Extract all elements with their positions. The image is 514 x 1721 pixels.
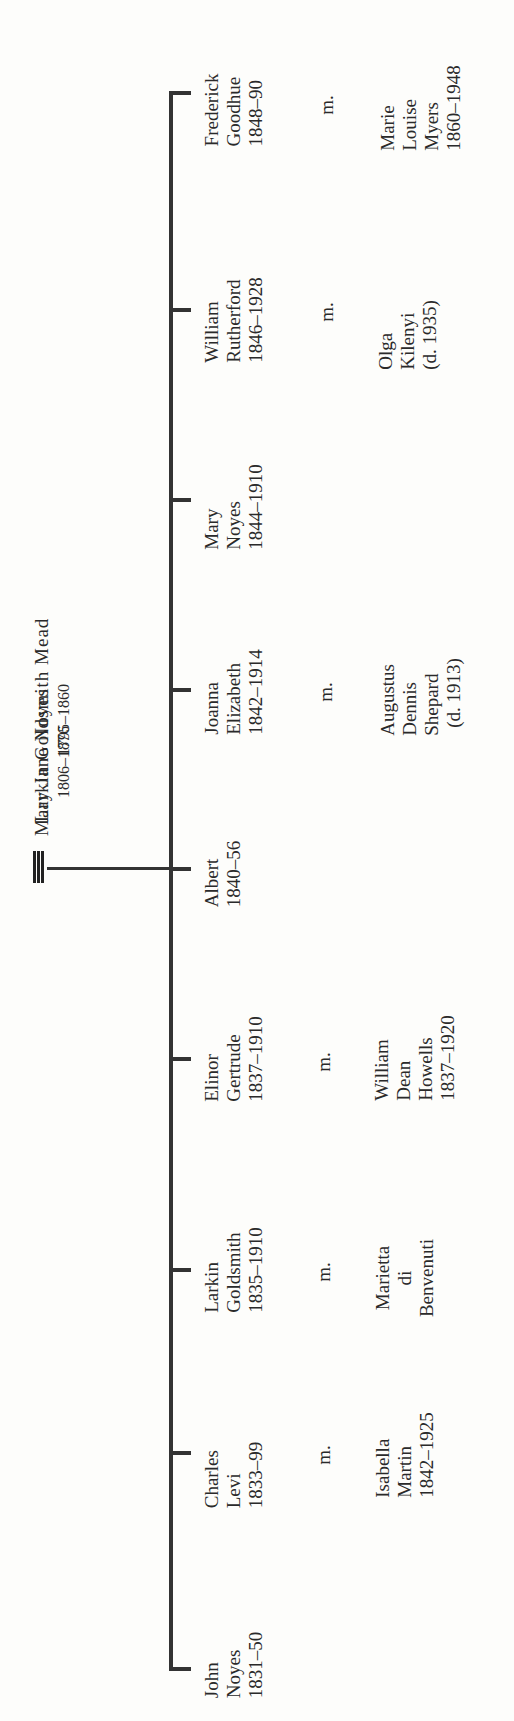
child-name-line: Mary xyxy=(201,464,223,550)
child-name-line: Noyes xyxy=(223,1632,245,1699)
child-dates: 1835–1910 xyxy=(245,1227,267,1313)
child-name-line: Elinor xyxy=(201,1016,223,1102)
child-dates: 1844–1910 xyxy=(245,464,267,550)
descent-line xyxy=(47,867,173,870)
spouse-dates: (d. 1935) xyxy=(419,300,441,370)
spouse-dates: 1842–1925 xyxy=(416,1412,438,1498)
tick-joanna xyxy=(169,688,191,692)
child-name-line: Charles xyxy=(201,1442,223,1509)
spouse-name-line: Dean xyxy=(393,1015,415,1101)
spouse-name-line: Augustus xyxy=(377,658,399,736)
tick-elinor xyxy=(169,1057,191,1061)
tick-william xyxy=(169,308,191,312)
child-name-line: Levi xyxy=(223,1442,245,1509)
child-dates: 1833–99 xyxy=(245,1442,267,1509)
spouse-name-line: Isabella xyxy=(372,1412,394,1498)
child-name-line: Joanna xyxy=(201,649,223,735)
marriage-symbol-icon xyxy=(33,851,36,883)
child-dates: 1837–1910 xyxy=(245,1016,267,1102)
spouse-name-line: Shepard xyxy=(421,658,443,736)
spouse-dates: 1860–1948 xyxy=(443,65,465,151)
tick-albert xyxy=(169,867,191,871)
spouse-dates: (d. 1913) xyxy=(443,658,465,736)
tick-john xyxy=(169,1667,191,1671)
marriage-symbol-icon-bar2 xyxy=(37,851,40,883)
child-name-line: Larkin xyxy=(201,1227,223,1313)
child-name-line: Gertrude xyxy=(223,1016,245,1102)
child-name-line: Albert xyxy=(201,841,223,908)
spouse-name-line: Martin xyxy=(394,1412,416,1498)
child-dates: 1842–1914 xyxy=(245,649,267,735)
sibling-line xyxy=(169,92,173,1671)
spouse-name-line: Myers xyxy=(421,65,443,151)
child-name-line: John xyxy=(201,1632,223,1699)
child-dates: 1846–1928 xyxy=(245,277,267,363)
spouse-name-line: Marie xyxy=(377,65,399,151)
child-dates: 1831–50 xyxy=(245,1632,267,1699)
child-name-line: William xyxy=(201,277,223,363)
spouse-name-line: William xyxy=(371,1015,393,1101)
child-dates: 1848–90 xyxy=(245,74,267,147)
spouse-name-line: Louise xyxy=(399,65,421,151)
tick-charles xyxy=(169,1451,191,1455)
child-name-line: Goodhue xyxy=(223,74,245,147)
marriage-symbol-icon-bar3 xyxy=(41,851,44,883)
child-name-line: Noyes xyxy=(223,464,245,550)
child-name-line: Frederick xyxy=(201,74,223,147)
tick-mary xyxy=(169,498,191,502)
spouse-name-line: di xyxy=(394,1239,416,1317)
spouse-dates: 1837–1920 xyxy=(437,1015,459,1101)
tick-larkin xyxy=(169,1268,191,1272)
child-name-line: Goldsmith xyxy=(223,1227,245,1313)
child-name-line: Rutherford xyxy=(223,277,245,363)
spouse-name-line: Dennis xyxy=(399,658,421,736)
mother-name: Mary Jane Noyes xyxy=(31,688,53,836)
mother-dates: 1806–1876 xyxy=(53,688,75,836)
child-name-line: Elizabeth xyxy=(223,649,245,735)
spouse-name-line: Olga xyxy=(375,300,397,370)
tick-frederick xyxy=(169,91,191,95)
spouse-name-line: Marietta xyxy=(372,1239,394,1317)
spouse-name-line: Kilenyi xyxy=(397,300,419,370)
spouse-name-line: Benvenuti xyxy=(416,1239,438,1317)
child-dates: 1840–56 xyxy=(223,841,245,908)
spouse-name-line: Howells xyxy=(415,1015,437,1101)
